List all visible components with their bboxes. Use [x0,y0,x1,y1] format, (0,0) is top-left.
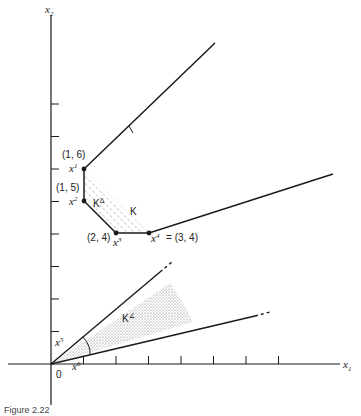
x-ticks [84,356,279,364]
x2-coords: (1, 5) [56,182,79,193]
k-label: K [130,206,137,217]
polyhedron-k: (1, 6) x1 (1, 5) x2 (2, 4) x3 x4 = (3, 4… [56,43,333,248]
diagram-canvas: x2 x1 0 K∠ x5 x6 (1, 6) x1 (1, 5) x2 (2,… [0,0,361,416]
y-axis-label: x2 [44,3,54,18]
cone-k-angle: K∠ x5 x6 [51,262,270,372]
figure-caption: Figure 2.22 [4,405,50,415]
y-ticks [51,104,59,332]
x4-coords: = (3, 4) [166,232,198,243]
x6-label: x6 [71,360,81,372]
x2-label: x2 [68,195,78,207]
x4-label: x4 [150,232,160,244]
x3-label: x3 [112,236,122,248]
origin-label: 0 [56,369,62,380]
x-axis-label: x1 [342,358,351,373]
edge-tick [129,126,133,133]
x3-coords: (2, 4) [87,232,110,243]
x5-label: x5 [54,336,64,348]
x1-coords: (1, 6) [62,149,85,160]
x1-label: x1 [68,162,77,174]
